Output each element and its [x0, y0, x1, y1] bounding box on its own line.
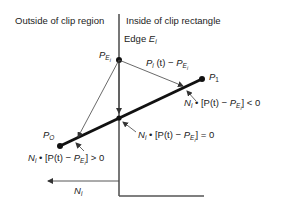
point-p0: [57, 143, 63, 149]
normal-label: Ni: [74, 186, 82, 198]
p0-label: PO: [43, 130, 54, 142]
edge-label: Edge Ei: [124, 34, 157, 46]
p1-label: P1: [209, 72, 219, 84]
pointer-greater-arrow: [76, 143, 84, 151]
vector-to-outside-arrow: [78, 60, 119, 137]
point-intersection: [116, 115, 121, 120]
condition-equal-label: Ni • [P(t) − PEi] = 0: [138, 130, 214, 143]
condition-less-label: Ni • [P(t) − PEi] < 0: [184, 98, 260, 111]
inside-region-label: Inside of clip rectangle: [126, 16, 221, 26]
condition-greater-label: Ni • [P(t) − PEi] > 0: [28, 153, 104, 166]
vector-label: Pi (t) − PEi: [146, 58, 188, 71]
p-ei-label: PEi: [99, 50, 111, 63]
point-p1: [199, 76, 205, 82]
outside-region-label: Outside of clip region: [15, 16, 104, 26]
pointer-equal-arrow: [123, 122, 136, 132]
